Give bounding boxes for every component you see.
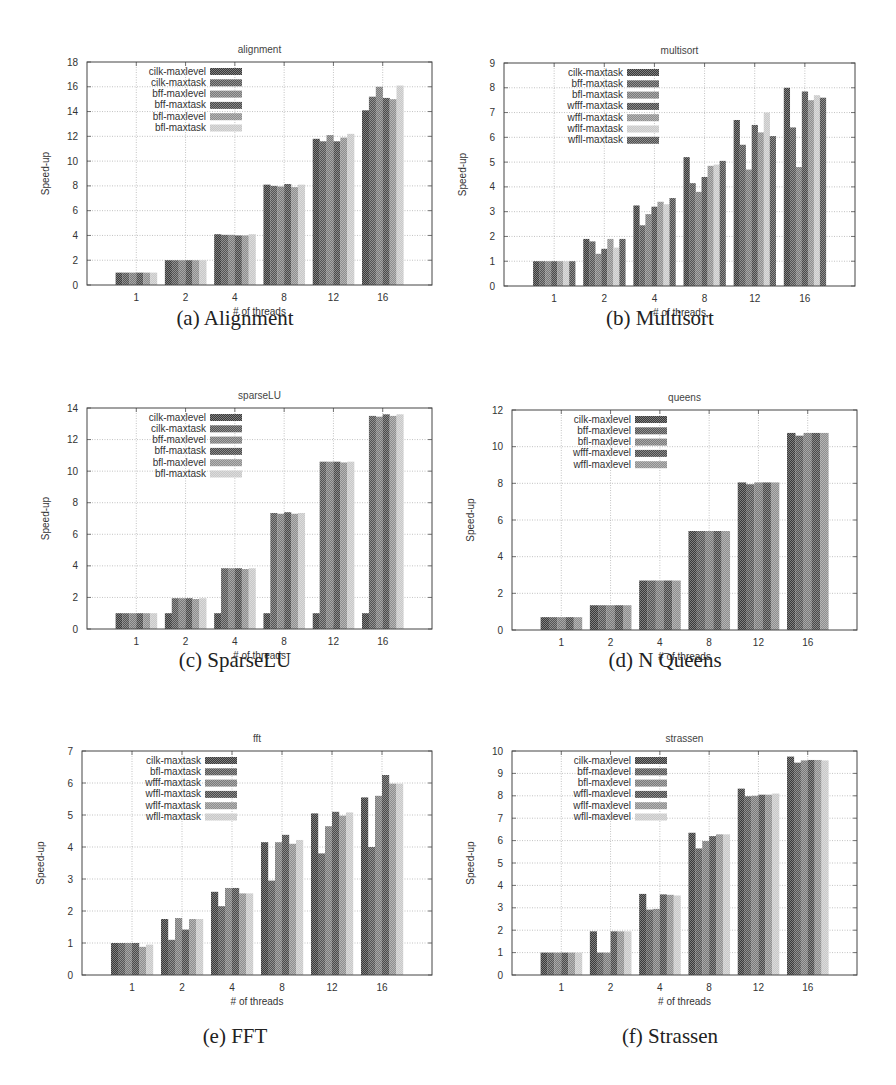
bar [752, 796, 759, 975]
y-tick-label: 6 [497, 835, 503, 846]
bar-group [541, 953, 583, 975]
bar [702, 841, 709, 975]
x-tick-label: 12 [753, 982, 765, 993]
bar-group [590, 931, 632, 975]
y-tick-label: 8 [497, 790, 503, 801]
bar [772, 794, 779, 975]
legend-swatch [635, 802, 667, 809]
x-tick-label: 4 [657, 982, 663, 993]
y-tick-label: 7 [497, 813, 503, 824]
bar [624, 931, 631, 975]
bar [568, 953, 575, 975]
bar [646, 910, 653, 975]
y-tick-label: 4 [497, 880, 503, 891]
y-tick-label: 10 [492, 746, 504, 757]
legend-label: bfl-maxlevel [578, 777, 631, 788]
bar-group [688, 833, 730, 975]
bar [597, 953, 604, 975]
bar [808, 760, 815, 975]
y-tick-label: 5 [497, 858, 503, 869]
bar [604, 953, 611, 975]
y-axis-label: Speed-up [465, 841, 476, 885]
bar [653, 909, 660, 975]
legend-label: wflf-maxlevel [572, 800, 631, 811]
bar [617, 931, 624, 975]
bar [541, 953, 548, 975]
caption-strassen: (f) Strassen [585, 1024, 755, 1049]
x-tick-label: 1 [559, 982, 565, 993]
legend-label: cilk-maxlevel [574, 755, 631, 766]
bar [738, 789, 745, 975]
bar [660, 894, 667, 975]
bar [716, 834, 723, 975]
bar [787, 757, 794, 975]
bar [815, 760, 822, 975]
legend-swatch [635, 757, 667, 764]
x-tick-label: 2 [608, 982, 614, 993]
bar [639, 894, 646, 975]
y-tick-label: 9 [497, 768, 503, 779]
bar-group [738, 789, 780, 975]
bar [667, 895, 674, 975]
x-tick-label: 16 [802, 982, 814, 993]
bar [590, 931, 597, 975]
bar [758, 795, 765, 975]
legend-swatch [635, 791, 667, 798]
y-tick-label: 3 [497, 902, 503, 913]
y-tick-label: 0 [497, 970, 503, 981]
x-axis-label: # of threads [658, 996, 711, 1007]
bar [822, 760, 829, 975]
bar [745, 796, 752, 975]
legend-label: wfll-maxlevel [573, 811, 631, 822]
x-tick-label: 8 [706, 982, 712, 993]
bar [765, 795, 772, 975]
legend-label: wffl-maxlevel [572, 788, 631, 799]
bar [611, 931, 618, 975]
legend-swatch [635, 814, 667, 821]
bar [674, 895, 681, 975]
bar [547, 953, 554, 975]
bar [575, 953, 582, 975]
bar-group [639, 894, 681, 975]
bar [561, 953, 568, 975]
legend-label: bff-maxlevel [577, 766, 631, 777]
bar [688, 833, 695, 975]
y-tick-label: 1 [497, 947, 503, 958]
bar [709, 836, 716, 975]
legend: cilk-maxlevelbff-maxlevelbfl-maxlevelwff… [572, 755, 667, 823]
bar [695, 848, 702, 975]
chart-title: strassen [666, 733, 704, 744]
bar-group [787, 757, 829, 975]
legend-swatch [635, 768, 667, 775]
bar [723, 834, 730, 975]
y-tick-label: 2 [497, 925, 503, 936]
bar [801, 760, 808, 975]
bar [794, 763, 801, 975]
bar [554, 953, 561, 975]
legend-swatch [635, 780, 667, 787]
